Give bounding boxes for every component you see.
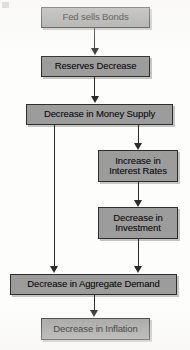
connector-line [138,125,139,144]
arrowhead-icon [134,143,142,150]
arrowhead-icon [90,310,98,317]
connector-line [94,28,95,49]
node-label: Increase in Interest Rates [107,156,169,177]
arrowhead-icon [91,96,99,103]
node-fed-sells-bonds[interactable]: Fed sells Bonds [41,7,150,28]
node-label: Fed sells Bonds [60,12,130,22]
page-corner-mark [2,2,9,8]
arrowhead-icon [134,200,142,207]
node-decrease-money-supply[interactable]: Decrease in Money Supply [26,104,173,125]
node-label: Decrease in Money Supply [42,109,157,119]
node-label: Decrease in Aggregate Demand [25,279,161,289]
arrowhead-icon [50,266,58,273]
node-decrease-investment[interactable]: Decrease in Investment [98,207,178,239]
node-label: Decrease in Investment [111,213,165,234]
connector-line [94,295,95,311]
node-increase-interest-rates[interactable]: Increase in Interest Rates [98,150,178,182]
connector-line [54,125,55,267]
connector-line [138,182,139,201]
arrowhead-icon [134,266,142,273]
node-reserves-decrease[interactable]: Reserves Decrease [41,56,150,77]
arrowhead-icon [91,48,99,55]
flowchart-diagram: Fed sells Bonds Reserves Decrease Decrea… [0,0,190,350]
node-decrease-inflation[interactable]: Decrease in Inflation [41,318,150,340]
connector-line [94,77,95,97]
node-label: Decrease in Inflation [51,324,140,334]
connector-line [138,239,139,267]
node-decrease-aggregate-demand[interactable]: Decrease in Aggregate Demand [10,274,177,295]
node-label: Reserves Decrease [53,61,139,71]
